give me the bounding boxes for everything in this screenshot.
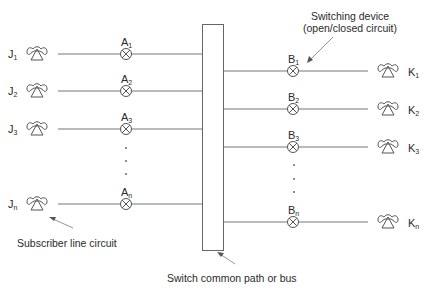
switch-icon bbox=[288, 142, 299, 153]
right-row-1 bbox=[224, 64, 398, 77]
subscriber-label-k1: K1 bbox=[408, 66, 419, 78]
switch-label-a1: A1 bbox=[121, 36, 132, 48]
left-row-n bbox=[27, 197, 202, 210]
right-row-n bbox=[224, 215, 398, 228]
right-row-3 bbox=[224, 140, 398, 153]
switching-device-caption-line1: Switching device bbox=[290, 10, 410, 22]
switch-icon bbox=[121, 86, 132, 97]
telephone-icon bbox=[27, 47, 47, 60]
left-row-1 bbox=[27, 47, 202, 60]
switch-icon bbox=[288, 217, 299, 228]
switch-label-a2: A2 bbox=[121, 73, 132, 85]
subscriber-label-kn: Kn bbox=[408, 217, 419, 229]
switch-label-b1: B1 bbox=[288, 53, 299, 65]
subscriber-line-caption: Subscriber line circuit bbox=[17, 237, 117, 249]
switch-label-b3: B3 bbox=[288, 129, 299, 141]
left-row-3 bbox=[27, 122, 202, 135]
right-ellipsis bbox=[293, 164, 295, 193]
right-row-2 bbox=[224, 102, 398, 115]
telephone-icon bbox=[27, 84, 47, 97]
switching-diagram: J1 J2 J3 Jn A1 A2 A3 An B1 B2 B3 Bn K1 K… bbox=[0, 0, 432, 292]
switch-icon bbox=[121, 124, 132, 135]
switch-icon bbox=[288, 104, 299, 115]
bus-caption: Switch common path or bus bbox=[167, 272, 297, 284]
left-row-2 bbox=[27, 84, 202, 97]
subscriber-label-j1: J1 bbox=[8, 48, 17, 60]
switch-icon bbox=[121, 49, 132, 60]
switch-label-a3: A3 bbox=[121, 111, 132, 123]
switch-icon bbox=[288, 66, 299, 77]
telephone-icon bbox=[378, 140, 398, 153]
telephone-icon bbox=[378, 102, 398, 115]
left-ellipsis bbox=[125, 147, 127, 175]
switching-device-caption: Switching device (open/closed circuit) bbox=[290, 10, 410, 34]
telephone-icon bbox=[27, 122, 47, 135]
arrow-subscriber-line bbox=[49, 217, 73, 228]
subscriber-label-j2: J2 bbox=[8, 85, 17, 97]
switching-device-caption-line2: (open/closed circuit) bbox=[290, 22, 410, 34]
telephone-icon bbox=[378, 64, 398, 77]
common-bus bbox=[203, 25, 224, 251]
subscriber-label-jn: Jn bbox=[8, 198, 17, 210]
subscriber-label-k2: K2 bbox=[408, 104, 419, 116]
telephone-icon bbox=[27, 197, 47, 210]
switch-icon bbox=[121, 199, 132, 210]
switch-label-bn: Bn bbox=[288, 204, 299, 216]
arrow-switching-device bbox=[307, 37, 333, 63]
switch-label-an: An bbox=[121, 186, 132, 198]
switch-label-b2: B2 bbox=[288, 91, 299, 103]
arrow-bus bbox=[217, 252, 235, 264]
subscriber-label-k3: K3 bbox=[408, 142, 419, 154]
telephone-icon bbox=[378, 215, 398, 228]
subscriber-label-j3: J3 bbox=[8, 123, 17, 135]
